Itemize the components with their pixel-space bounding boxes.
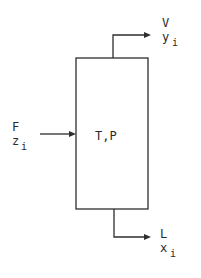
vessel-conditions-label: T,P	[95, 129, 117, 143]
feed-inlet-stream	[40, 131, 76, 137]
liquid-composition-subscript: i	[170, 248, 176, 259]
vapor-composition-subscript: i	[172, 37, 178, 48]
liquid-arrowhead-icon	[144, 234, 151, 240]
liquid-stream-name: L	[160, 227, 167, 241]
feed-composition-subscript: i	[21, 141, 27, 152]
liquid-composition-symbol: x	[160, 241, 167, 255]
vapor-stream-name: V	[162, 16, 169, 30]
vapor-arrowhead-icon	[144, 32, 151, 38]
liquid-outlet-line	[114, 209, 146, 237]
vapor-composition-symbol: y	[162, 30, 169, 44]
liquid-outlet-stream	[114, 209, 151, 240]
feed-arrowhead-icon	[69, 131, 76, 137]
flash-drum-diagram: T,P V y i F z i L x i	[0, 0, 201, 278]
feed-stream-name: F	[12, 120, 19, 134]
vapor-outlet-stream	[113, 32, 151, 58]
vapor-outlet-line	[113, 35, 146, 58]
feed-composition-symbol: z	[12, 134, 19, 148]
